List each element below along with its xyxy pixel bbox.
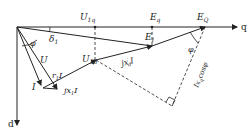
phasor-diagram: U1q Eq EQ q d E′1 U1d δ1 φ U I r1I jx1I … — [0, 0, 250, 131]
eq-point — [151, 26, 154, 29]
r1i-phasor — [43, 88, 57, 89]
delta1-arc — [49, 27, 50, 32]
label-u1q: U1q — [80, 12, 95, 24]
label-d-axis: d — [8, 119, 14, 129]
label-r1i: r1I — [52, 71, 63, 81]
label-jx1i: jx1I — [62, 86, 78, 96]
label-delta1: δ1 — [49, 34, 58, 45]
perpendicular-line-1 — [96, 60, 172, 106]
label-phi-1: φ — [30, 39, 36, 48]
label-phi-2: φ — [188, 45, 194, 54]
label-eq: Eq — [149, 12, 161, 24]
eq-connector — [152, 27, 205, 46]
i-phasor — [17, 27, 41, 85]
e1-prime-phasor — [17, 27, 152, 46]
label-u: U — [40, 55, 48, 65]
label-e1-prime: E′1 — [144, 30, 155, 43]
u1q-point — [94, 26, 97, 29]
label-q-axis: q — [241, 22, 247, 32]
label-jxdi: jx′dI — [118, 55, 136, 69]
label-EQ: EQ — [196, 12, 209, 23]
phi-arc-2 — [190, 32, 198, 43]
label-u1d: U1d — [82, 54, 97, 65]
label-i: I — [31, 82, 36, 92]
jx1i-phasor — [43, 60, 96, 88]
label-ixq-cos-phi: Ixqcosφ — [192, 61, 212, 90]
